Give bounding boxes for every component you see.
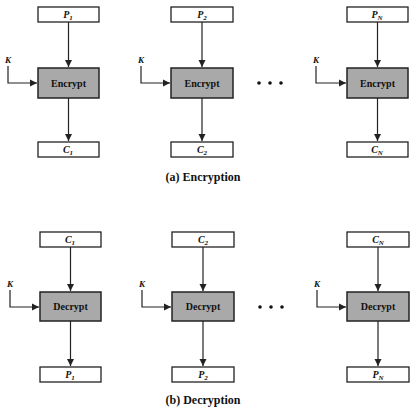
decryption-block-1: C1 Decrypt K P1 [6, 232, 101, 382]
encryption-block-1: P1 Encrypt K C1 [4, 7, 99, 157]
encryption-block-2: P2 Encrypt K C2 [137, 7, 233, 157]
key-label-n: K [313, 279, 321, 289]
key-arrow-2 [142, 290, 171, 307]
key-arrow-n [317, 290, 346, 307]
key-arrow-2 [141, 66, 170, 83]
key-label-1: K [6, 279, 14, 289]
encryption-block-n: PN Encrypt K CN [312, 7, 408, 157]
decryption-block-2: C2 Decrypt K P2 [138, 232, 234, 382]
decryption-section: C1 Decrypt K P1 C2 Decrypt K P2 [6, 232, 409, 407]
key-arrow-n [316, 66, 346, 83]
key-label-1: K [4, 55, 12, 65]
ecb-diagram: P1 Encrypt K C1 P2 Encrypt K C2 [0, 0, 417, 414]
key-arrow-1 [10, 290, 39, 307]
encrypt-label-1: Encrypt [51, 78, 87, 89]
key-label-2: K [138, 279, 146, 289]
decryption-block-n: CN Decrypt K PN [313, 232, 409, 382]
ellipsis-decryption [258, 305, 284, 309]
key-arrow-1 [8, 66, 37, 83]
key-label-2: K [137, 55, 145, 65]
decrypt-label-2: Decrypt [186, 301, 221, 312]
decrypt-label-1: Decrypt [53, 301, 88, 312]
encrypt-label-2: Encrypt [185, 78, 221, 89]
encrypt-label-n: Encrypt [360, 78, 396, 89]
ellipsis-encryption [257, 81, 283, 85]
encryption-section: P1 Encrypt K C1 P2 Encrypt K C2 [4, 7, 408, 184]
decrypt-label-n: Decrypt [361, 301, 396, 312]
decryption-caption: (b) Decryption [166, 393, 241, 407]
encryption-caption: (a) Encryption [166, 170, 241, 184]
key-label-n: K [312, 55, 320, 65]
